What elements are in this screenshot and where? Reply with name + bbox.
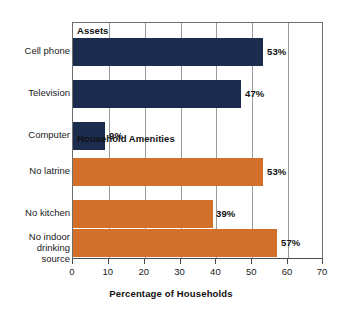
tick-mark-60 bbox=[287, 259, 288, 264]
bar-value-no-latrine: 53% bbox=[267, 166, 286, 177]
plot-area: Assets 53% 47% 9% Household Amenities 53… bbox=[72, 22, 323, 259]
tick-label-0: 0 bbox=[57, 266, 87, 277]
tick-label-20: 20 bbox=[129, 266, 159, 277]
bar-value-television: 47% bbox=[245, 88, 264, 99]
tick-mark-30 bbox=[180, 259, 181, 264]
bar-value-no-kitchen: 39% bbox=[216, 208, 235, 219]
x-axis-title: Percentage of Households bbox=[0, 288, 342, 299]
category-label-no-latrine: No latrine bbox=[29, 165, 70, 176]
category-label-cell-phone: Cell phone bbox=[25, 45, 70, 56]
tick-mark-10 bbox=[108, 259, 109, 264]
group-header-assets: Assets bbox=[77, 25, 108, 36]
tick-mark-70 bbox=[322, 259, 323, 264]
bar-television bbox=[73, 80, 241, 108]
bar-no-indoor-drinking-source bbox=[73, 229, 277, 257]
bar-value-cell-phone: 53% bbox=[267, 46, 286, 57]
tick-mark-20 bbox=[144, 259, 145, 264]
tick-label-70: 70 bbox=[307, 266, 337, 277]
gridline-60 bbox=[288, 23, 289, 258]
tick-label-60: 60 bbox=[272, 266, 302, 277]
category-label-no-indoor-drinking-source: No indoor drinking source bbox=[29, 231, 70, 264]
tick-mark-40 bbox=[215, 259, 216, 264]
tick-label-40: 40 bbox=[200, 266, 230, 277]
bar-cell-phone bbox=[73, 38, 263, 66]
bar-value-no-indoor-drinking-source: 57% bbox=[281, 237, 300, 248]
bar-no-latrine bbox=[73, 158, 263, 186]
category-label-television: Television bbox=[28, 87, 70, 98]
bar-chart: Assets 53% 47% 9% Household Amenities 53… bbox=[0, 0, 342, 312]
tick-label-50: 50 bbox=[236, 266, 266, 277]
tick-mark-0 bbox=[72, 259, 73, 264]
tick-label-30: 30 bbox=[165, 266, 195, 277]
tick-label-10: 10 bbox=[93, 266, 123, 277]
category-label-computer: Computer bbox=[28, 129, 70, 140]
category-label-no-kitchen: No kitchen bbox=[25, 207, 70, 218]
bar-no-kitchen bbox=[73, 200, 213, 228]
tick-mark-50 bbox=[251, 259, 252, 264]
group-header-amenities: Household Amenities bbox=[77, 133, 175, 144]
